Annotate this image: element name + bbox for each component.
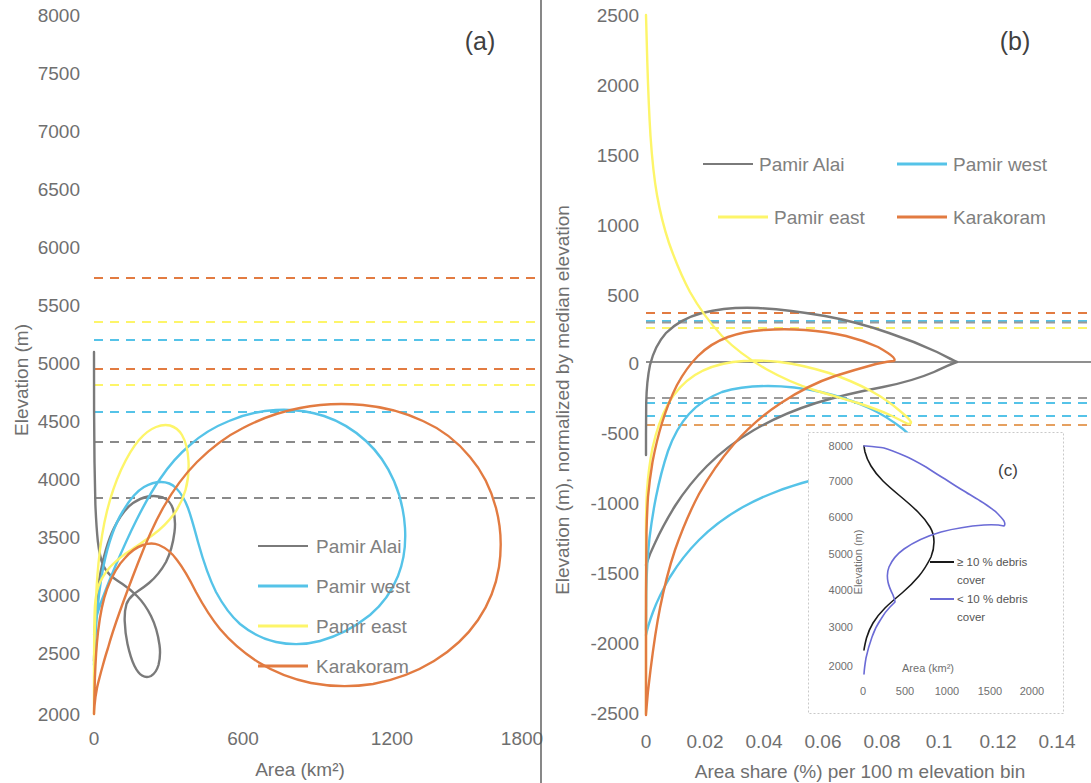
y-tick: 500 <box>607 285 639 306</box>
y-tick: 2000 <box>38 704 80 725</box>
x-tick: 0.04 <box>746 731 783 752</box>
y-tick: -1000 <box>590 493 639 514</box>
y-tick: 5500 <box>38 295 80 316</box>
y-tick: 2500 <box>38 643 80 664</box>
y-tick: -2000 <box>590 633 639 654</box>
y-tick: 4000 <box>829 584 853 596</box>
y-tick: 2000 <box>597 75 639 96</box>
panel-c-inset: 8000 7000 6000 5000 4000 3000 2000 0 500… <box>808 432 1064 714</box>
legend-label-karakoram: Karakoram <box>953 207 1046 228</box>
x-tick: 0 <box>860 685 866 697</box>
y-tick: 4000 <box>38 469 80 490</box>
legend-label-debris-ge10-line2: cover <box>957 574 985 586</box>
legend-label-debris-lt10-line1: < 10 % debris <box>957 593 1028 605</box>
curve-pamir-east <box>94 425 189 714</box>
x-tick: 600 <box>227 728 259 749</box>
legend-label-karakoram: Karakoram <box>316 656 409 677</box>
panel-b-label: (b) <box>1000 27 1031 55</box>
y-tick: -2500 <box>590 703 639 724</box>
panel-c-svg: 8000 7000 6000 5000 4000 3000 2000 0 500… <box>808 432 1064 714</box>
y-tick: 7000 <box>38 121 80 142</box>
panel-a-ylabel: Elevation (m) <box>11 324 32 436</box>
panel-b-xlabel: Area share (%) per 100 m elevation bin <box>695 761 1026 782</box>
x-tick: 0.14 <box>1039 731 1076 752</box>
legend-label-debris-lt10-line2: cover <box>957 611 985 623</box>
panel-b-x-ticks: 0 0.02 0.04 0.06 0.08 0.1 0.12 0.14 <box>641 731 1076 752</box>
x-tick: 0 <box>89 728 100 749</box>
panel-a-y-ticks: 8000 7500 7000 6500 6000 5500 5000 4500 … <box>38 5 80 725</box>
y-tick: 4500 <box>38 411 80 432</box>
y-tick: 8000 <box>829 440 853 452</box>
panel-a-x-ticks: 0 600 1200 1800 <box>89 728 543 749</box>
y-tick: -1500 <box>590 563 639 584</box>
y-tick: 1500 <box>597 145 639 166</box>
panel-a-xlabel: Area (km²) <box>255 759 345 780</box>
panel-a: 8000 7500 7000 6500 6000 5500 5000 4500 … <box>0 0 545 783</box>
panel-a-reference-lines <box>94 278 541 498</box>
panel-c-xlabel: Area (km²) <box>902 662 954 674</box>
y-tick: 6000 <box>38 237 80 258</box>
legend-label-pamir-alai: Pamir Alai <box>316 536 402 557</box>
x-tick: 1000 <box>935 685 959 697</box>
legend-label-pamir-alai: Pamir Alai <box>759 154 845 175</box>
y-tick: 7000 <box>829 475 853 487</box>
panel-a-label: (a) <box>465 27 496 55</box>
x-tick: 0.06 <box>805 731 842 752</box>
panel-b-y-ticks: 2500 2000 1500 1000 500 0 -500 -1000 -15… <box>590 5 639 724</box>
x-tick: 2000 <box>1020 685 1044 697</box>
x-tick: 0.1 <box>926 731 952 752</box>
x-tick: 0 <box>641 731 652 752</box>
legend-label-pamir-west: Pamir west <box>953 154 1048 175</box>
y-tick: 8000 <box>38 5 80 26</box>
x-tick: 1500 <box>978 685 1002 697</box>
y-tick: 6500 <box>38 179 80 200</box>
y-tick: -500 <box>601 423 639 444</box>
y-tick: 1000 <box>597 215 639 236</box>
figure-root: 8000 7500 7000 6500 6000 5500 5000 4500 … <box>0 0 1091 783</box>
panel-a-svg: 8000 7500 7000 6500 6000 5500 5000 4500 … <box>0 0 545 783</box>
panel-a-curves <box>94 352 501 714</box>
y-tick: 5000 <box>38 353 80 374</box>
panel-b-legend: Pamir Alai Pamir west Pamir east Karakor… <box>703 154 1048 228</box>
x-tick: 0.02 <box>687 731 724 752</box>
x-tick: 500 <box>896 685 914 697</box>
y-tick: 3500 <box>38 527 80 548</box>
y-tick: 0 <box>628 353 639 374</box>
y-tick: 2000 <box>829 660 853 672</box>
x-tick: 1200 <box>371 728 413 749</box>
legend-label-pamir-east: Pamir east <box>774 207 866 228</box>
panel-a-legend: Pamir Alai Pamir west Pamir east Karakor… <box>258 536 411 677</box>
y-tick: 7500 <box>38 63 80 84</box>
legend-label-debris-ge10-line1: ≥ 10 % debris <box>957 556 1027 568</box>
x-tick: 0.08 <box>864 731 901 752</box>
y-tick: 3000 <box>829 621 853 633</box>
legend-label-pamir-east: Pamir east <box>316 616 408 637</box>
panel-c-ylabel: Elevation (m) <box>852 530 864 595</box>
y-tick: 6000 <box>829 511 853 523</box>
legend-label-pamir-west: Pamir west <box>316 576 411 597</box>
y-tick: 5000 <box>829 548 853 560</box>
x-tick: 0.12 <box>980 731 1017 752</box>
panel-b-ylabel: Elevation (m), normalized by median elev… <box>552 205 573 595</box>
panel-c-label: (c) <box>998 461 1018 480</box>
y-tick: 3000 <box>38 585 80 606</box>
y-tick: 2500 <box>597 5 639 26</box>
